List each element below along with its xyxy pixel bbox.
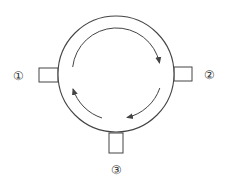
port-2-label: ②	[201, 67, 217, 83]
circulator-body	[58, 16, 174, 132]
circulator-diagram	[0, 0, 228, 185]
port-3-stub	[109, 133, 123, 153]
port-2-stub	[174, 67, 192, 81]
port-1-stub	[39, 68, 58, 82]
port-3-label: ③	[108, 162, 124, 178]
port-1-label: ①	[10, 68, 26, 84]
